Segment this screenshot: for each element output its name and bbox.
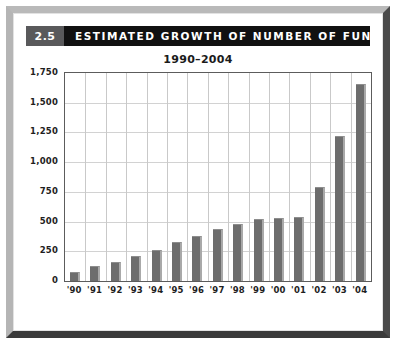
figure-frame: 2.5 ESTIMATED GROWTH OF NUMBER OF FUND O…	[6, 6, 390, 338]
bars-layer	[65, 73, 371, 281]
x-tick-label: '02	[311, 285, 326, 295]
bar-99[interactable]	[254, 219, 264, 281]
figure-number-badge: 2.5	[26, 26, 64, 46]
y-tick-label: 500	[40, 216, 58, 226]
bar-slot	[147, 73, 167, 281]
x-tick-label: '04	[352, 285, 367, 295]
bar-90[interactable]	[70, 272, 80, 282]
bar-slot	[85, 73, 105, 281]
x-tick-label: '90	[67, 285, 82, 295]
x-tick-label: '96	[189, 285, 204, 295]
bar-97[interactable]	[213, 229, 223, 281]
bar-00[interactable]	[274, 218, 284, 281]
bar-slot	[228, 73, 248, 281]
bar-01[interactable]	[294, 217, 304, 281]
x-tick-label: '93	[128, 285, 143, 295]
y-tick-label: 1,000	[30, 156, 58, 166]
x-tick-label: '98	[230, 285, 245, 295]
chart-plot-wrapper: 02505007501,0001,2501,5001,750 '90'91'92…	[26, 72, 374, 320]
bar-92[interactable]	[111, 262, 121, 281]
bar-slot	[310, 73, 330, 281]
x-tick-label: '00	[271, 285, 286, 295]
figure-title-text: ESTIMATED GROWTH OF NUMBER OF FUND OF FU…	[64, 30, 370, 42]
bar-slot	[330, 73, 350, 281]
plot-area	[64, 72, 372, 282]
bar-slot	[269, 73, 289, 281]
y-tick-label: 1,250	[30, 126, 58, 136]
x-tick-label: '99	[250, 285, 265, 295]
x-tick-label: '91	[87, 285, 102, 295]
x-tick-label: '03	[332, 285, 347, 295]
y-tick-label: 250	[40, 245, 58, 255]
bar-03[interactable]	[335, 136, 345, 281]
figure-title-bar: 2.5 ESTIMATED GROWTH OF NUMBER OF FUND O…	[26, 26, 370, 46]
bar-98[interactable]	[233, 224, 243, 281]
bar-slot	[249, 73, 269, 281]
bar-slot	[126, 73, 146, 281]
x-tick-label: '92	[107, 285, 122, 295]
bar-91[interactable]	[90, 266, 100, 281]
chart-subtitle: 1990–2004	[14, 53, 382, 66]
bar-slot	[65, 73, 85, 281]
bar-96[interactable]	[192, 236, 202, 281]
figure-inner-panel: 2.5 ESTIMATED GROWTH OF NUMBER OF FUND O…	[13, 13, 383, 331]
y-tick-label: 0	[52, 275, 58, 285]
bar-slot	[289, 73, 309, 281]
bar-slot	[351, 73, 371, 281]
x-tick-label: '95	[169, 285, 184, 295]
y-tick-label: 750	[40, 186, 58, 196]
x-tick-label: '94	[148, 285, 163, 295]
bar-93[interactable]	[131, 256, 141, 281]
bar-95[interactable]	[172, 242, 182, 281]
bar-slot	[106, 73, 126, 281]
y-tick-label: 1,750	[30, 67, 58, 77]
bar-slot	[187, 73, 207, 281]
bar-slot	[167, 73, 187, 281]
x-axis: '90'91'92'93'94'95'96'97'98'99'00'01'02'…	[64, 285, 372, 303]
y-axis: 02505007501,0001,2501,5001,750	[26, 72, 62, 282]
x-tick-label: '01	[291, 285, 306, 295]
y-tick-label: 1,500	[30, 97, 58, 107]
bar-04[interactable]	[356, 84, 366, 281]
bar-94[interactable]	[152, 250, 162, 281]
x-tick-label: '97	[209, 285, 224, 295]
bar-slot	[208, 73, 228, 281]
bar-02[interactable]	[315, 187, 325, 281]
